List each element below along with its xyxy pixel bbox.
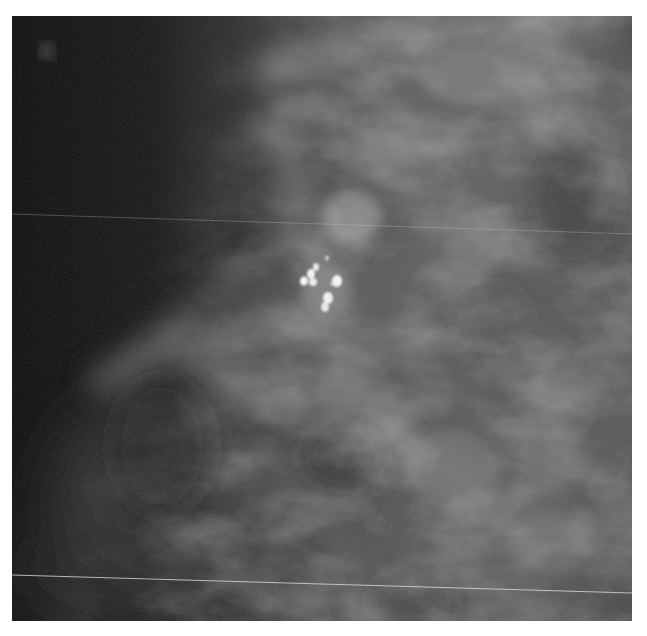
- calcification: [307, 269, 315, 279]
- calcification: [325, 256, 329, 261]
- calcification: [321, 302, 329, 312]
- calcification: [331, 282, 334, 286]
- mammogram-image: Dense fibroglandular breast tissue with …: [12, 16, 632, 621]
- calcification: [300, 277, 308, 286]
- film-grain: [12, 16, 632, 621]
- calcification: [309, 278, 317, 286]
- calcification: [332, 275, 342, 287]
- mammogram-render: [12, 16, 632, 621]
- calcification: [313, 263, 319, 271]
